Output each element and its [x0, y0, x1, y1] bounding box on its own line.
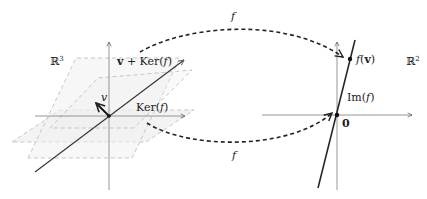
origin-point-r3 — [107, 114, 111, 118]
kernel-label: Ker(f) — [136, 101, 168, 114]
map-arrow-bottom-label: f — [231, 149, 238, 162]
map-arrow-top-label: f — [230, 10, 237, 23]
fv-label: f(v) — [355, 53, 375, 66]
codomain-space-r2: f(v) Im(f) 0 ℝ2 — [262, 40, 420, 190]
affine-plane-label: v + Ker(f) — [116, 55, 172, 68]
origin-point-r2 — [335, 113, 339, 117]
map-arrow-top — [140, 29, 343, 57]
origin-label-r2: 0 — [342, 117, 350, 130]
kernel-image-diagram: ℝ3 v + Ker(f) Ker(f) v f(v) Im(f) 0 ℝ2 f — [0, 0, 427, 199]
vector-v-label: v — [101, 91, 108, 104]
fv-point — [348, 57, 352, 61]
domain-space-r3: ℝ3 v + Ker(f) Ker(f) v — [12, 42, 194, 190]
image-label: Im(f) — [347, 91, 374, 104]
r2-label: ℝ2 — [406, 55, 420, 68]
r3-label: ℝ3 — [50, 55, 64, 68]
